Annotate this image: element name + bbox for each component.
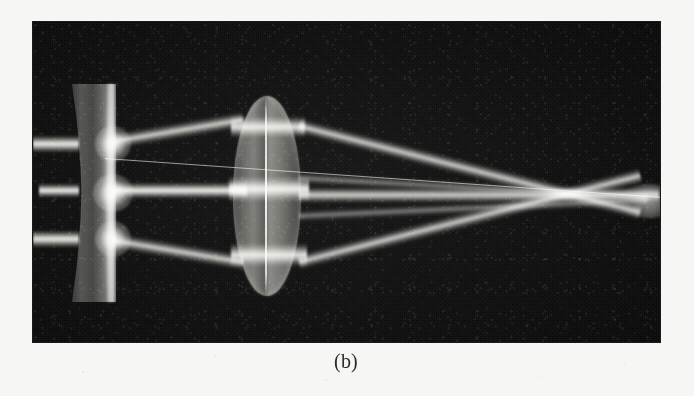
photo-background	[33, 22, 660, 342]
figure-page: (b)	[0, 0, 694, 396]
figure-caption-text: (b)	[334, 350, 358, 373]
figure-caption: (b)	[0, 350, 694, 373]
optics-photograph	[33, 22, 660, 342]
